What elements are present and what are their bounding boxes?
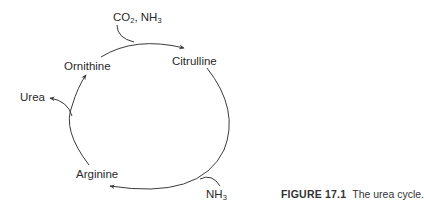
node-urea: Urea	[20, 91, 45, 104]
nh3-subscript: 3	[223, 193, 227, 202]
figure-caption: FIGURE 17.1The urea cycle.	[281, 188, 424, 201]
node-ornithine: Ornithine	[64, 60, 111, 73]
co2-nh3-input-label: CO2, NH3	[113, 11, 162, 24]
branch-urea-output	[50, 98, 72, 116]
nh3-subscript: 3	[157, 16, 161, 25]
nh3-input-label: NH3	[206, 188, 227, 201]
arc-citrulline-to-arginine	[110, 68, 229, 189]
cycle-arrows	[0, 0, 424, 214]
branch-co2-nh3-input	[117, 25, 134, 42]
figure-number: FIGURE 17.1	[281, 188, 346, 200]
caption-text: The urea cycle.	[352, 188, 424, 200]
node-arginine: Arginine	[76, 168, 118, 181]
branch-nh3-input	[200, 177, 220, 186]
node-citrulline: Citrulline	[172, 55, 217, 68]
nh3-text: , NH	[134, 11, 157, 23]
nh3-text: NH	[206, 188, 223, 200]
arc-arginine-to-ornithine	[69, 75, 89, 165]
co2-text: CO	[113, 11, 130, 23]
urea-cycle-diagram: CO2, NH3 Ornithine Citrulline Urea Argin…	[0, 0, 424, 214]
